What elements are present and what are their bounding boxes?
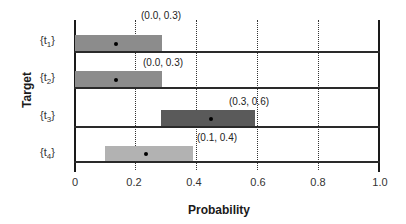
- row-baseline-t1: [74, 51, 380, 53]
- annotation-t3: (0.3, 0.6): [229, 96, 269, 107]
- row-baseline-t2: [74, 87, 380, 89]
- row-baseline-t4: [74, 161, 380, 163]
- x-tick-0.8: 0.8: [310, 176, 325, 188]
- grid-line-0.8: [318, 20, 319, 170]
- bar-t3: [161, 110, 255, 127]
- point-t2: [114, 78, 118, 82]
- bar-t1: [75, 35, 162, 52]
- x-axis-label: Probability: [188, 203, 250, 217]
- grid-line-0.6: [257, 20, 258, 170]
- x-tick-0.2: 0.2: [126, 176, 141, 188]
- x-tick-mark-1.0: [379, 163, 380, 167]
- x-tick-mark-0: [74, 163, 75, 167]
- row-label-t1: {t1}: [40, 34, 55, 49]
- annotation-t2: (0.0, 0.3): [143, 57, 183, 68]
- point-t1: [114, 42, 118, 46]
- right-border-line: [378, 20, 380, 172]
- bar-t4: [105, 146, 193, 162]
- grid-line-0.4: [196, 20, 197, 170]
- point-t4: [144, 152, 148, 156]
- x-tick-1.0: 1.0: [372, 176, 387, 188]
- annotation-t4: (0.1, 0.4): [197, 132, 237, 143]
- row-label-t2: {t2}: [40, 71, 55, 86]
- row-label-t4: {t4}: [40, 146, 55, 161]
- x-tick-0.6: 0.6: [250, 176, 265, 188]
- row-baseline-t3: [74, 126, 380, 128]
- y-axis-label: Target: [20, 65, 34, 115]
- row-label-t3: {t3}: [40, 109, 55, 124]
- x-tick-0: 0: [72, 176, 78, 188]
- point-t3: [209, 117, 213, 121]
- annotation-t1: (0.0, 0.3): [141, 10, 181, 21]
- bar-t2: [75, 71, 162, 88]
- x-tick-0.4: 0.4: [186, 176, 201, 188]
